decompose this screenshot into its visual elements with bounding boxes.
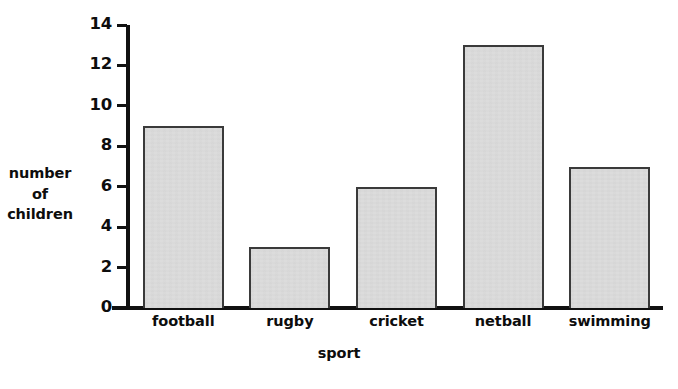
- y-axis-tick: [117, 266, 127, 269]
- bar-texture: [358, 189, 435, 308]
- y-axis-tick-label: 4: [78, 216, 112, 235]
- y-axis-tick: [117, 24, 127, 27]
- x-axis-title: sport: [0, 345, 678, 361]
- bar-chart: number of children 02468101214 footballr…: [0, 0, 678, 389]
- y-axis-title-line-2: of: [0, 184, 86, 205]
- y-axis-tick-label: 0: [78, 297, 112, 316]
- bar-slot: [356, 25, 437, 308]
- x-axis-category-label: swimming: [550, 313, 670, 329]
- y-axis-title: number of children: [0, 163, 86, 225]
- y-axis-tick: [117, 307, 127, 310]
- bar-texture: [251, 249, 328, 308]
- bar-texture: [465, 47, 542, 308]
- y-axis-tick-label: 14: [78, 14, 112, 33]
- bar[interactable]: [143, 126, 224, 308]
- y-axis-title-line-1: number: [0, 163, 86, 184]
- x-axis-category-label: cricket: [337, 313, 457, 329]
- y-axis-tick-label: 8: [78, 135, 112, 154]
- bar-slot: [249, 25, 330, 308]
- y-axis-title-line-3: children: [0, 204, 86, 225]
- y-axis-tick: [117, 64, 127, 67]
- x-axis-category-label: football: [123, 313, 243, 329]
- bar[interactable]: [463, 45, 544, 308]
- y-axis-tick-label: 6: [78, 176, 112, 195]
- bar-texture: [571, 169, 648, 309]
- y-axis-tick: [117, 145, 127, 148]
- bar[interactable]: [249, 247, 330, 308]
- bar[interactable]: [569, 167, 650, 309]
- x-axis-category-label: netball: [443, 313, 563, 329]
- y-axis-tick: [117, 226, 127, 229]
- bar-slot: [463, 25, 544, 308]
- bar-texture: [145, 128, 222, 308]
- y-axis-tick-label: 12: [78, 54, 112, 73]
- x-axis-category-label: rugby: [230, 313, 350, 329]
- bar-slot: [143, 25, 224, 308]
- y-axis-tick-label: 2: [78, 257, 112, 276]
- y-axis-tick: [117, 185, 127, 188]
- y-axis-tick: [117, 104, 127, 107]
- plot-area: [130, 25, 663, 308]
- y-axis-tick-label: 10: [78, 95, 112, 114]
- bar-slot: [569, 25, 650, 308]
- bar[interactable]: [356, 187, 437, 308]
